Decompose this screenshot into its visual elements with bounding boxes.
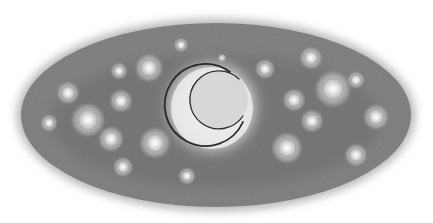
star: [174, 38, 189, 53]
star: [299, 46, 323, 70]
star: [282, 88, 306, 112]
star: [344, 143, 368, 167]
star: [98, 126, 125, 153]
night-sky-illustration: [0, 0, 433, 223]
crescent-moon-icon: [160, 55, 264, 159]
star: [255, 59, 276, 80]
star: [300, 109, 324, 133]
star: [134, 53, 164, 83]
star: [109, 89, 133, 113]
star: [314, 70, 353, 109]
star: [113, 157, 134, 178]
star: [178, 167, 196, 185]
star: [347, 71, 365, 89]
star: [40, 114, 58, 132]
star: [56, 81, 80, 105]
star: [271, 132, 304, 165]
star: [363, 104, 390, 131]
star: [110, 62, 128, 80]
